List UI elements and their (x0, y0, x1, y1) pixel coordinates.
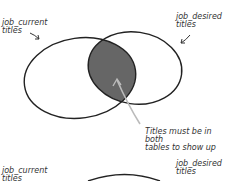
annotation-text: Titles must be in both tables to show up (145, 128, 227, 152)
right-label: job_desired titles (176, 13, 222, 29)
bottom-left-label: job_current titles (2, 167, 47, 181)
left-label: job_current titles (2, 19, 47, 35)
bottom-right-label: job_desired titles (176, 160, 222, 176)
bottom-ellipse-partial (88, 175, 160, 182)
arrow-icon (181, 35, 190, 43)
